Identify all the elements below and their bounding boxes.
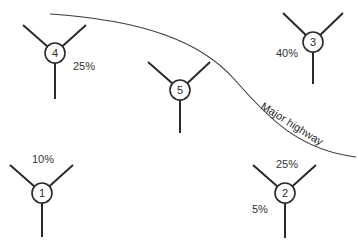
node-arm <box>187 62 210 83</box>
y-node-network-diagram: Major highway 110%225%5%340%425%5 <box>0 0 358 246</box>
percentage-label: 25% <box>276 158 298 170</box>
highway-label: Major highway <box>259 100 326 148</box>
node-number: 3 <box>310 36 316 48</box>
node-number: 1 <box>39 187 45 199</box>
node-5: 5 <box>148 62 210 133</box>
percentage-label: 40% <box>276 47 298 59</box>
percentage-label: 10% <box>32 153 54 165</box>
node-arm <box>253 165 277 186</box>
node-arm <box>49 165 73 186</box>
node-arm <box>23 25 47 46</box>
node-arm <box>283 13 306 35</box>
node-number: 5 <box>177 84 183 96</box>
percentage-label: 5% <box>252 203 268 215</box>
node-3: 340% <box>276 13 343 84</box>
node-arm <box>148 62 172 83</box>
node-arm <box>320 13 343 35</box>
node-arm <box>62 25 86 46</box>
node-4: 425% <box>23 25 95 99</box>
node-2: 225%5% <box>252 158 316 238</box>
node-number: 2 <box>282 187 288 199</box>
node-1: 110% <box>10 153 73 237</box>
node-number: 4 <box>52 47 58 59</box>
node-arm <box>10 165 34 186</box>
percentage-label: 25% <box>73 60 95 72</box>
